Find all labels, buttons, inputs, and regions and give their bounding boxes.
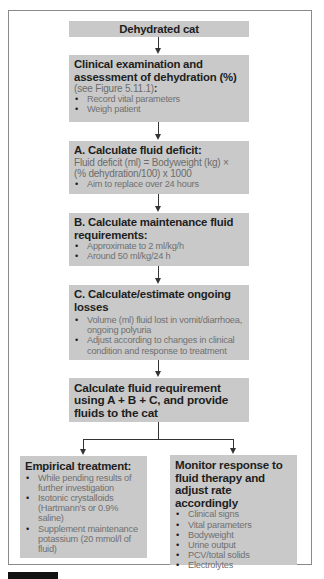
- clinical-exam-title: Clinical examination and assessment of d…: [74, 58, 244, 83]
- monitor-response-title: Monitor response to fluid therapy and ad…: [175, 459, 292, 509]
- arrow-down-icon: [155, 371, 161, 377]
- formula-line-2: (% dehydration/100) x 1000: [74, 168, 244, 179]
- step-c-box: C. Calculate/estimate ongoing losses Vol…: [69, 285, 249, 360]
- list-item: PCV/total solids: [175, 550, 292, 560]
- clinical-exam-list: Record vital parameters Weigh patient: [74, 94, 244, 114]
- monitor-response-box: Monitor response to fluid therapy and ad…: [170, 455, 297, 565]
- total-requirement-title: Calculate fluid requirement using A + B …: [74, 382, 244, 419]
- figure-label-bar: [8, 572, 58, 579]
- colon: :: [154, 83, 157, 94]
- empirical-treatment-title: Empirical treatment:: [25, 460, 142, 473]
- connector-line: [158, 37, 159, 48]
- list-item: Vital parameters: [175, 520, 292, 530]
- list-item: Supplement maintenance potassium (20 mmo…: [25, 524, 142, 555]
- list-item: Aim to replace over 24 hours: [74, 179, 244, 189]
- connector-line: [158, 194, 159, 206]
- arrow-down-icon: [230, 448, 236, 454]
- step-b-box: B. Calculate maintenance fluid requireme…: [69, 213, 249, 266]
- branch-line: [83, 439, 234, 440]
- figure-reference-text: (see Figure 5.11.1): [74, 83, 154, 94]
- arrow-down-icon: [155, 206, 161, 212]
- list-item: Approximate to 2 ml/kg/h: [74, 241, 244, 251]
- step-a-list: Aim to replace over 24 hours: [74, 179, 244, 189]
- connector-line: [233, 439, 234, 448]
- arrow-down-icon: [155, 278, 161, 284]
- step-c-title: C. Calculate/estimate ongoing losses: [74, 288, 244, 313]
- list-item: Isotonic crystalloids (Hartmann's or 0.9…: [25, 493, 142, 524]
- step-c-list: Volume (ml) fluid lost in vomit/diarrhoe…: [74, 315, 244, 356]
- connector-line: [158, 422, 159, 439]
- list-item: Around 50 ml/kg/24 h: [74, 251, 244, 261]
- list-item: Urine output: [175, 540, 292, 550]
- arrow-down-icon: [155, 134, 161, 140]
- list-item: Adjust according to changes in clinical …: [74, 335, 244, 355]
- connector-line: [158, 122, 159, 134]
- figure-reference: (see Figure 5.11.1):: [74, 83, 244, 94]
- step-b-title: B. Calculate maintenance fluid requireme…: [74, 216, 244, 241]
- step-a-box: A. Calculate fluid deficit: Fluid defici…: [69, 141, 249, 194]
- list-item: Electrolytes: [175, 560, 292, 570]
- arrow-down-icon: [155, 48, 161, 54]
- list-item: Bodyweight: [175, 530, 292, 540]
- empirical-treatment-box: Empirical treatment: While pending resul…: [20, 456, 147, 558]
- list-item: Weigh patient: [74, 104, 244, 114]
- start-title: Dehydrated cat: [74, 23, 244, 36]
- arrow-down-icon: [80, 449, 86, 455]
- list-item: Clinical signs: [175, 509, 292, 519]
- list-item: Volume (ml) fluid lost in vomit/diarrhoe…: [74, 315, 244, 335]
- connector-line: [158, 266, 159, 278]
- empirical-treatment-list: While pending results of further investi…: [25, 473, 142, 555]
- start-box: Dehydrated cat: [69, 21, 249, 37]
- list-item: Record vital parameters: [74, 94, 244, 104]
- list-item: While pending results of further investi…: [25, 473, 142, 493]
- total-requirement-box: Calculate fluid requirement using A + B …: [69, 378, 249, 422]
- connector-line: [83, 439, 84, 449]
- clinical-exam-box: Clinical examination and assessment of d…: [69, 55, 249, 122]
- monitor-response-list: Clinical signs Vital parameters Bodyweig…: [175, 509, 292, 570]
- formula-line-1: Fluid deficit (ml) = Bodyweight (kg) ×: [74, 157, 244, 168]
- step-a-title: A. Calculate fluid deficit:: [74, 144, 244, 157]
- step-b-list: Approximate to 2 ml/kg/h Around 50 ml/kg…: [74, 241, 244, 261]
